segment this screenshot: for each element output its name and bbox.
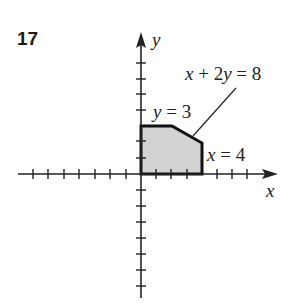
constraint-label-y-eq-3: y = 3 bbox=[151, 101, 191, 122]
feasible-region-diagram: y x x + 2y = 8 y = 3 x = 4 bbox=[0, 0, 296, 308]
y-axis-label: y bbox=[150, 29, 161, 50]
constraint-label-x-eq-4: x = 4 bbox=[206, 144, 246, 165]
constraint-label-x-plus-2y-eq-8: x + 2y = 8 bbox=[184, 63, 261, 84]
x-axis-label: x bbox=[265, 180, 275, 201]
constraint-leader-line bbox=[193, 88, 236, 136]
feasible-region bbox=[141, 126, 202, 174]
